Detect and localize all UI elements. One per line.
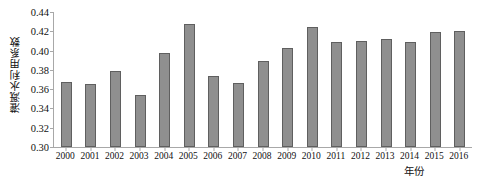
y-axis-tick-mark (50, 31, 54, 32)
x-axis-tick-labels: 2000200120022003200420052006200720082009… (53, 150, 471, 164)
x-axis-tick-label: 2012 (348, 150, 373, 164)
y-axis-tick-label: 0.38 (31, 64, 49, 75)
bar-slot (349, 12, 374, 147)
bar-slot (423, 12, 448, 147)
x-axis-tick-label: 2000 (53, 150, 78, 164)
y-axis-title: 灌溉水利用系数 (8, 14, 24, 136)
y-axis-tick-mark (50, 147, 54, 148)
y-axis-tick-mark (50, 108, 54, 109)
bar (258, 61, 269, 147)
bar (159, 53, 170, 147)
x-axis-title: 年份 (404, 165, 464, 177)
plot-area (53, 12, 472, 148)
bar (184, 24, 195, 147)
y-axis-tick-mark (50, 51, 54, 52)
y-axis-tick-label: 0.42 (31, 26, 49, 37)
y-axis-tick-labels: 0.440.420.400.380.360.340.320.30 (24, 0, 51, 186)
bar-slot (202, 12, 227, 147)
bar (331, 42, 342, 147)
bar-slot (177, 12, 202, 147)
x-axis-tick-label: 2001 (78, 150, 103, 164)
x-axis-tick-label: 2014 (397, 150, 422, 164)
bar-slot (300, 12, 325, 147)
bar-slot (374, 12, 399, 147)
bar (282, 48, 293, 147)
bar (208, 76, 219, 147)
bar-slot (79, 12, 104, 147)
y-axis-tick-label: 0.30 (31, 142, 49, 153)
x-axis-tick-label: 2013 (373, 150, 398, 164)
y-axis-tick-mark (50, 12, 54, 13)
bar (405, 42, 416, 147)
x-axis-tick-label: 2008 (250, 150, 275, 164)
bar-slot (251, 12, 276, 147)
y-axis-tick-mark (50, 89, 54, 90)
bar-slot (275, 12, 300, 147)
y-axis-tick-label: 0.40 (31, 45, 49, 56)
bar (430, 32, 441, 147)
x-axis-tick-label: 2016 (447, 150, 472, 164)
y-axis-tick-label: 0.44 (31, 7, 49, 18)
x-axis-tick-label: 2005 (176, 150, 201, 164)
x-axis-tick-label: 2009 (274, 150, 299, 164)
bar (307, 27, 318, 147)
bar (381, 39, 392, 147)
bar-slot (54, 12, 79, 147)
x-axis-tick-label: 2015 (422, 150, 447, 164)
bar-slot (128, 12, 153, 147)
bar (233, 83, 244, 147)
y-axis-tick-mark (50, 128, 54, 129)
x-axis-tick-label: 2003 (127, 150, 152, 164)
bar (85, 84, 96, 147)
y-axis-tick-mark (50, 70, 54, 71)
bar-slot (325, 12, 350, 147)
y-axis-tick-label: 0.32 (31, 122, 49, 133)
x-axis-tick-label: 2002 (102, 150, 127, 164)
x-axis-tick-label: 2007 (225, 150, 250, 164)
bar (135, 95, 146, 147)
x-axis-tick-label: 2004 (151, 150, 176, 164)
bar-series (54, 12, 472, 147)
bar (61, 82, 72, 147)
bar (110, 71, 121, 147)
bar-slot (103, 12, 128, 147)
x-axis-tick-label: 2006 (201, 150, 226, 164)
bar-slot (448, 12, 473, 147)
bar-chart: 灌溉水利用系数 0.440.420.400.380.360.340.320.30… (0, 0, 483, 186)
bar-slot (152, 12, 177, 147)
bar-slot (398, 12, 423, 147)
bar (356, 41, 367, 147)
y-axis-tick-label: 0.36 (31, 84, 49, 95)
y-axis-tick-label: 0.34 (31, 103, 49, 114)
x-axis-tick-label: 2011 (324, 150, 349, 164)
bar-slot (226, 12, 251, 147)
bar (454, 31, 465, 147)
x-axis-tick-label: 2010 (299, 150, 324, 164)
